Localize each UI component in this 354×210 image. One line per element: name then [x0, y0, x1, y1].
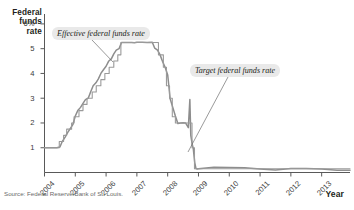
data-series-layer	[45, 42, 351, 170]
y-tick-label: 2	[13, 118, 35, 127]
callout-target-rate: Target federal funds rate	[190, 64, 280, 77]
federal-funds-rate-figure: Federal funds rate Year Effective federa…	[0, 0, 354, 210]
series-target-rate	[45, 42, 351, 168]
y-tick-label: 6%	[13, 19, 35, 28]
leader-line-effective	[92, 40, 113, 62]
leader-line-target	[188, 77, 228, 152]
y-tick-label: 1	[13, 143, 35, 152]
series-effective-rate	[45, 42, 351, 170]
y-tick-label: 4	[13, 69, 35, 78]
callout-effective-rate: Effective federal funds rate	[52, 27, 150, 40]
x-axis-ticks	[45, 173, 322, 177]
y-tick-label: 3	[13, 94, 35, 103]
y-tick-label: 5	[13, 44, 35, 53]
y-axis-ticks	[41, 24, 45, 148]
